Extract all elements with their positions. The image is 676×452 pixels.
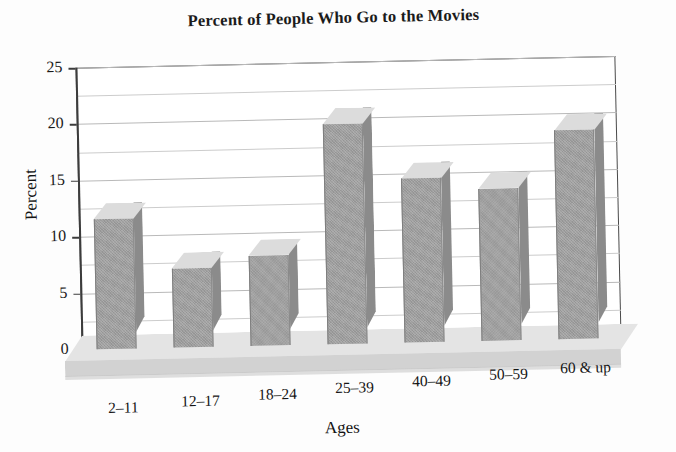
chart-canvas: Percent of People Who Go to the Movies 0…: [0, 0, 676, 452]
x-axis-tick-labels: 2–1112–1718–2425–3940–4950–5960 & up: [0, 0, 676, 452]
x-tick-label: 60 & up: [540, 358, 630, 378]
